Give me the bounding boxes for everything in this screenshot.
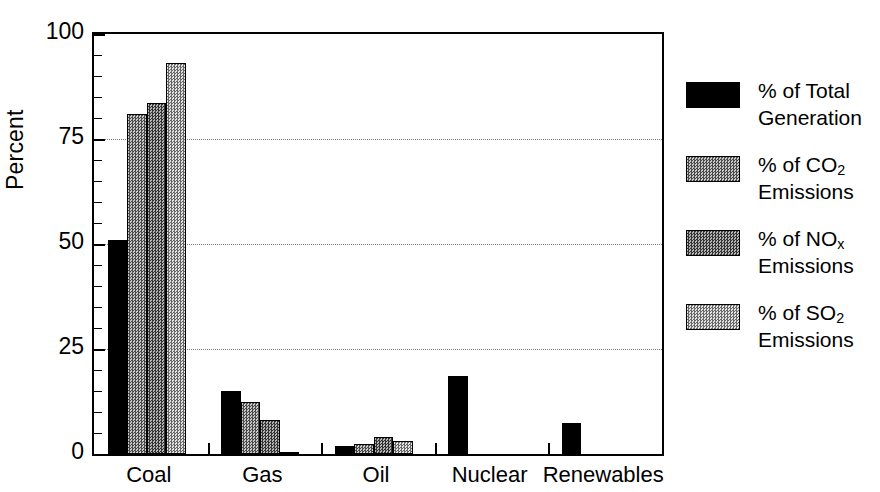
legend-item-3[interactable]: % of SO2Emissions	[686, 300, 876, 356]
legend-label-3: % of SO2Emissions	[758, 300, 854, 354]
y-tick-95	[94, 55, 102, 56]
legend-swatch-3	[686, 304, 740, 330]
y-tick-80	[94, 118, 102, 119]
y-tick-10	[94, 412, 102, 413]
legend-swatch-2	[686, 230, 740, 256]
y-tick-label-100: 100	[14, 20, 84, 43]
y-tick-45	[94, 265, 102, 266]
y-tick-65	[94, 181, 102, 182]
legend-subscript-2: x	[837, 236, 844, 252]
bar-oil-series-2	[374, 437, 394, 454]
bar-coal-series-1	[127, 114, 147, 454]
bar-coal-series-2	[147, 103, 167, 454]
y-tick-20	[94, 370, 102, 371]
bar-gas-series-1	[241, 402, 261, 455]
x-tick-3	[435, 443, 437, 454]
bar-coal-series-3	[166, 63, 186, 454]
y-tick-75	[94, 139, 105, 141]
y-tick-60	[94, 202, 102, 203]
legend-subscript-1: 2	[837, 162, 845, 178]
plot-inner	[94, 34, 662, 454]
chart-legend: % of TotalGeneration% of CO2Emissions% o…	[686, 78, 876, 374]
bar-nuclear-series-0	[448, 376, 468, 454]
plot-area	[92, 32, 664, 456]
y-tick-label-25: 25	[14, 335, 84, 358]
legend-item-0[interactable]: % of TotalGeneration	[686, 78, 876, 134]
legend-label-0: % of TotalGeneration	[758, 78, 862, 131]
y-tick-25	[94, 349, 105, 351]
x-tick-label-gas: Gas	[242, 462, 282, 488]
x-tick-label-oil: Oil	[363, 462, 390, 488]
bar-gas-series-2	[260, 420, 280, 454]
y-tick-0	[94, 454, 105, 456]
bar-coal-series-0	[108, 240, 128, 454]
y-tick-50	[94, 244, 105, 246]
legend-swatch-1	[686, 156, 740, 182]
bar-gas-series-0	[221, 391, 241, 454]
y-axis-tick-labels: 0255075100	[8, 32, 84, 452]
x-tick-label-renewables: Renewables	[543, 462, 664, 488]
x-tick-label-coal: Coal	[126, 462, 171, 488]
bar-oil-series-1	[354, 444, 374, 455]
bar-gas-series-3	[280, 452, 300, 454]
legend-label-1: % of CO2Emissions	[758, 152, 854, 206]
y-tick-100	[94, 34, 105, 36]
legend-subscript-3: 2	[836, 310, 844, 326]
y-tick-90	[94, 76, 102, 77]
bar-renewables-series-0	[562, 423, 582, 455]
x-tick-1	[208, 443, 210, 454]
y-tick-label-75: 75	[14, 125, 84, 148]
y-tick-70	[94, 160, 102, 161]
legend-item-1[interactable]: % of CO2Emissions	[686, 152, 876, 208]
x-tick-label-nuclear: Nuclear	[452, 462, 528, 488]
y-tick-35	[94, 307, 102, 308]
y-tick-55	[94, 223, 102, 224]
y-tick-label-50: 50	[14, 230, 84, 253]
y-tick-label-0: 0	[14, 440, 84, 463]
y-tick-85	[94, 97, 102, 98]
legend-label-2: % of NOxEmissions	[758, 226, 854, 280]
y-tick-5	[94, 433, 102, 434]
legend-swatch-0	[686, 82, 740, 108]
x-tick-2	[321, 443, 323, 454]
legend-item-2[interactable]: % of NOxEmissions	[686, 226, 876, 282]
bar-oil-series-3	[393, 441, 413, 454]
y-tick-30	[94, 328, 102, 329]
bar-oil-series-0	[335, 446, 355, 454]
x-tick-4	[548, 443, 550, 454]
y-tick-40	[94, 286, 102, 287]
y-tick-15	[94, 391, 102, 392]
bar-chart-figure: Percent 0255075100 % of TotalGeneration%…	[0, 0, 880, 492]
